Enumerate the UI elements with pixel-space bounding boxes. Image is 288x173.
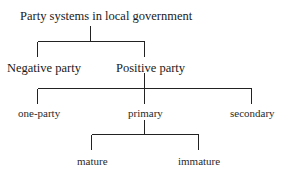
root-node-label: Party systems in local government: [20, 10, 192, 23]
tree-connectors: [0, 0, 288, 173]
positive-party-node: Positive party: [116, 62, 185, 75]
secondary-node: secondary: [230, 108, 275, 119]
mature-node: mature: [77, 156, 108, 167]
negative-party-node: Negative party: [7, 62, 81, 75]
one-party-node: one-party: [18, 108, 60, 119]
immature-node: immature: [178, 156, 220, 167]
primary-node: primary: [128, 108, 163, 119]
